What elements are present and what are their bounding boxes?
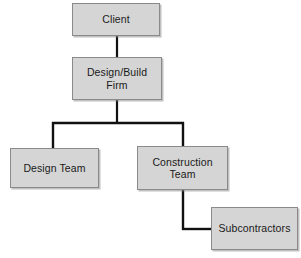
node-subcontractors[interactable]: Subcontractors — [211, 207, 298, 250]
node-construction-team-label: Construction Team — [150, 156, 214, 181]
node-subcontractors-label: Subcontractors — [216, 222, 292, 235]
node-construction-team[interactable]: Construction Team — [137, 146, 228, 190]
node-client-label: Client — [100, 13, 131, 26]
node-design-team-label: Design Team — [21, 162, 87, 175]
org-chart-canvas: Client Design/Build Firm Design Team Con… — [0, 0, 301, 258]
node-design-build-firm-label: Design/Build Firm — [85, 66, 149, 91]
node-design-team[interactable]: Design Team — [10, 148, 99, 188]
node-client[interactable]: Client — [72, 3, 160, 36]
node-design-build-firm[interactable]: Design/Build Firm — [72, 57, 162, 100]
